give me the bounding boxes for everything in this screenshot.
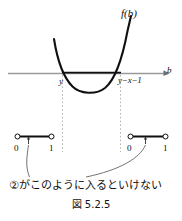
annotation-note: ②がこのように入るといけない — [9, 180, 162, 191]
root-label-left: y — [59, 77, 63, 86]
left-interval-endpoint-1 — [49, 134, 54, 139]
right-interval-label-0: 0 — [127, 144, 132, 153]
left-interval-label-0: 0 — [14, 144, 19, 153]
right-interval-line — [128, 134, 168, 144]
figure-container: f(b) b y y−x−1 0 1 0 1 ②がこのように入るといけない 図 … — [0, 0, 182, 221]
left-interval-endpoint-0 — [15, 134, 20, 139]
right-interval-endpoint-1 — [163, 134, 168, 139]
figure-caption: 図 5.2.5 — [0, 200, 182, 210]
axis-label-b: b — [167, 66, 172, 75]
curve-label: f(b) — [121, 8, 137, 19]
root-label-right: y−x−1 — [118, 76, 142, 85]
left-interval-label-1: 1 — [49, 144, 54, 153]
right-interval-endpoint-0 — [128, 134, 133, 139]
right-interval-label-1: 1 — [163, 144, 168, 153]
